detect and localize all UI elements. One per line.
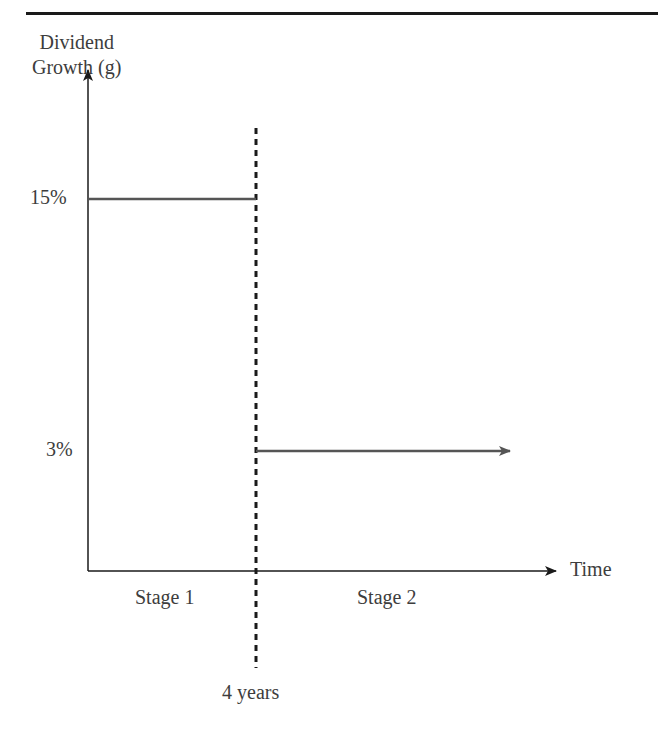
- growth-chart: [0, 0, 658, 748]
- y-axis-label-line1: Dividend: [32, 30, 121, 55]
- y-axis-label: Dividend Growth (g): [32, 30, 121, 80]
- x-axis-label: Time: [570, 558, 612, 581]
- stage1-label: Stage 1: [135, 586, 194, 609]
- tick-label-3: 3%: [46, 438, 73, 461]
- stage2-label: Stage 2: [357, 586, 416, 609]
- tick-label-15: 15%: [30, 186, 67, 209]
- divider-label: 4 years: [222, 681, 279, 704]
- y-axis-label-line2: Growth (g): [32, 55, 121, 80]
